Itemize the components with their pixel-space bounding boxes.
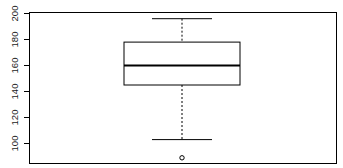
- y-tick-label-200: 200: [9, 6, 20, 22]
- y-tick-label-140: 140: [9, 84, 20, 100]
- box-iqr-rect: [124, 42, 240, 85]
- boxplot-figure: 200 180 160 140 120 100: [0, 0, 343, 168]
- y-tick-label-120: 120: [9, 110, 20, 126]
- y-tick-label-180: 180: [9, 32, 20, 48]
- y-tick-label-100: 100: [9, 136, 20, 152]
- boxplot-canvas: 200 180 160 140 120 100: [0, 0, 343, 168]
- y-tick-label-160: 160: [9, 58, 20, 74]
